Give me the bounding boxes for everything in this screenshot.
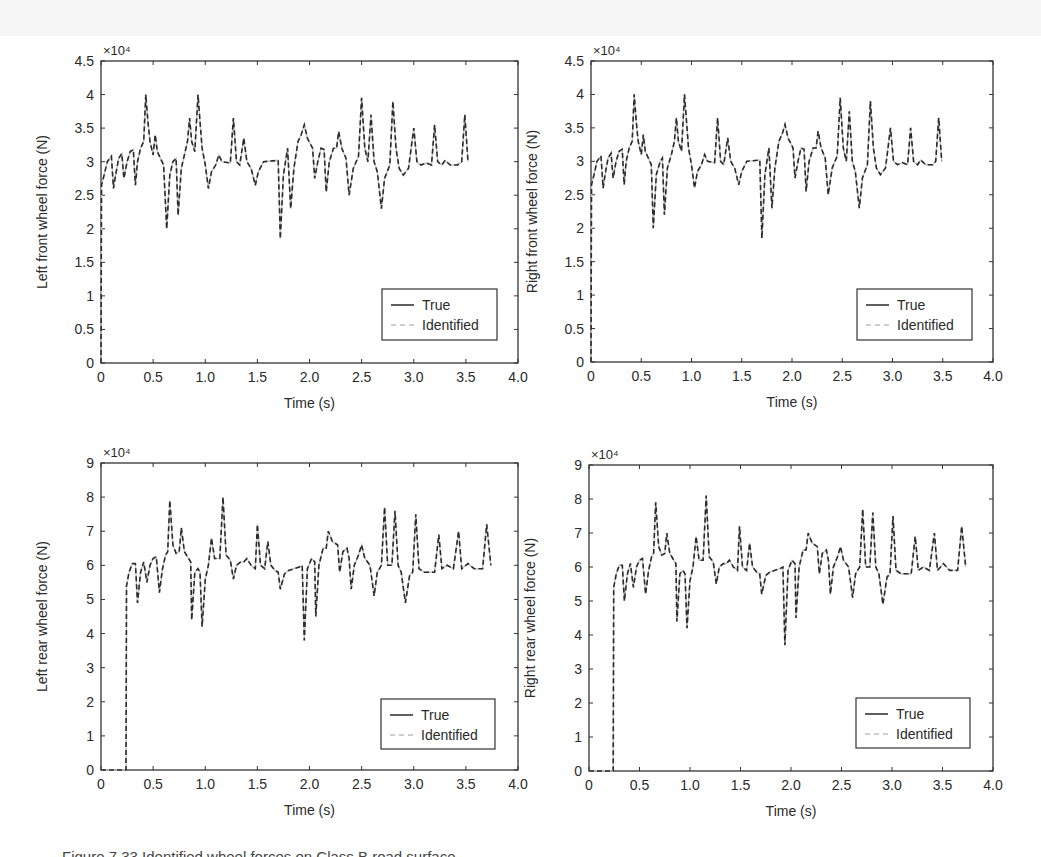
x-tick-label: 2.0 [300,776,320,792]
x-tick-label: 4.0 [983,368,1003,384]
y-tick-label: 1 [574,729,582,745]
y-axis-label: Left front wheel force (N) [34,135,50,289]
y-tick-label: 0 [86,762,94,778]
y-tick-label: 4 [86,626,94,642]
x-tick-label: 3.0 [882,777,902,793]
y-tick-label: 4.5 [565,53,585,69]
x-tick-label: 2.5 [832,777,852,793]
y-tick-label: 6 [574,559,582,575]
x-axis-label: Time (s) [284,802,335,818]
x-tick-label: 3.0 [883,368,903,384]
y-tick-label: 2 [86,221,94,237]
x-tick-label: 1.0 [196,776,216,792]
x-tick-label: 2.0 [781,777,801,793]
x-tick-label: 0 [97,776,105,792]
y-axis-label: Right front wheel force (N) [524,130,540,293]
y-tick-label: 3 [86,660,94,676]
y-tick-label: 8 [574,491,582,507]
y-tick-label: 9 [86,455,94,471]
x-tick-label: 1.5 [248,369,268,385]
chart-grid: 00.51.01.52.02.53.03.54.000.511.522.533.… [0,0,1041,857]
x-tick-label: 2.5 [833,368,853,384]
y-tick-label: 9 [574,457,582,473]
x-tick-label: 3.5 [456,369,476,385]
chart-right-rear: 00.51.01.52.02.53.03.54.00123456789×10⁴T… [522,447,1003,819]
y-tick-label: 2 [574,695,582,711]
x-tick-label: 4.0 [508,776,528,792]
y-tick-label: 5 [574,593,582,609]
legend-true-label: True [897,297,925,313]
y-axis-label: Left rear wheel force (N) [34,541,50,692]
y-multiplier-label: ×10⁴ [103,43,131,58]
y-tick-label: 8 [86,489,94,505]
y-tick-label: 7 [86,523,94,539]
y-tick-label: 1.5 [75,254,95,270]
x-axis-label: Time (s) [767,394,818,410]
y-tick-label: 4 [86,87,94,103]
y-multiplier-label: ×10⁴ [593,43,621,58]
y-tick-label: 1 [86,728,94,744]
chart-left-front: 00.51.01.52.02.53.03.54.000.511.522.533.… [34,43,528,411]
y-tick-label: 2.5 [565,187,585,203]
x-tick-label: 4.0 [508,369,528,385]
y-tick-label: 2 [576,220,584,236]
figure-caption: Figure 7.33 Identified wheel forces on C… [62,846,456,857]
x-tick-label: 0 [587,368,595,384]
x-axis-label: Time (s) [284,395,335,411]
y-tick-label: 0.5 [75,321,95,337]
legend-true-label: True [896,706,924,722]
y-tick-label: 3.5 [565,120,585,136]
legend-identified-label: Identified [422,317,479,333]
y-tick-label: 0 [574,763,582,779]
y-tick-label: 1 [576,287,584,303]
x-tick-label: 0.5 [143,369,163,385]
y-tick-label: 5 [86,591,94,607]
x-tick-label: 1.5 [731,777,751,793]
x-tick-label: 0.5 [632,368,652,384]
x-tick-label: 0 [585,777,593,793]
x-tick-label: 4.0 [983,777,1003,793]
y-tick-label: 0 [576,354,584,370]
y-tick-label: 0.5 [565,321,585,337]
x-tick-label: 1.0 [196,369,216,385]
chart-right-front: 00.51.01.52.02.53.03.54.000.511.522.533.… [524,43,1003,410]
y-tick-label: 2.5 [75,187,95,203]
y-tick-label: 3 [574,661,582,677]
y-tick-label: 3 [86,154,94,170]
y-multiplier-label: ×10⁴ [103,445,131,460]
x-tick-label: 1.5 [248,776,268,792]
y-tick-label: 3 [576,153,584,169]
y-tick-label: 4.5 [75,53,95,69]
x-tick-label: 3.5 [933,777,953,793]
y-tick-label: 3.5 [75,120,95,136]
legend-identified-label: Identified [421,727,478,743]
y-tick-label: 4 [576,86,584,102]
x-axis-label: Time (s) [766,803,817,819]
x-tick-label: 2.5 [352,776,372,792]
x-tick-label: 3.0 [404,776,424,792]
y-tick-label: 0 [86,355,94,371]
legend-identified-label: Identified [896,726,953,742]
y-tick-label: 2 [86,694,94,710]
x-tick-label: 0 [97,369,105,385]
y-tick-label: 4 [574,627,582,643]
y-multiplier-label: ×10⁴ [591,447,619,462]
x-tick-label: 1.5 [732,368,752,384]
x-tick-label: 0.5 [630,777,650,793]
x-tick-label: 1.0 [680,777,700,793]
x-tick-label: 3.5 [456,776,476,792]
x-tick-label: 3.5 [933,368,953,384]
x-tick-label: 2.0 [300,369,320,385]
legend-true-label: True [422,297,450,313]
y-tick-label: 7 [574,525,582,541]
legend-identified-label: Identified [897,317,954,333]
x-tick-label: 2.0 [782,368,802,384]
y-tick-label: 6 [86,557,94,573]
x-tick-label: 0.5 [143,776,163,792]
y-tick-label: 1 [86,288,94,304]
x-tick-label: 3.0 [404,369,424,385]
x-tick-label: 2.5 [352,369,372,385]
y-axis-label: Right rear wheel force (N) [522,538,538,698]
chart-left-rear: 00.51.01.52.02.53.03.54.00123456789×10⁴T… [34,445,528,818]
legend-true-label: True [421,707,449,723]
